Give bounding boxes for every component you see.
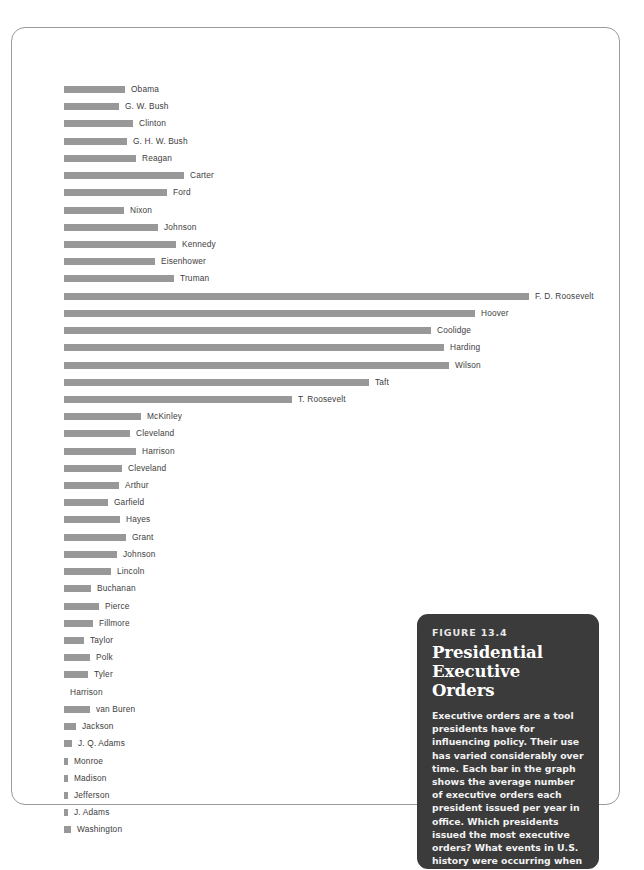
bar-row: Harding [64,344,624,361]
bar-label: Harding [450,344,480,351]
bar-label: van Buren [96,706,135,713]
figure-title-line-2: Executive Orders [432,662,584,700]
bar-row: Reagan [64,155,624,172]
bar [64,585,91,592]
bar [64,413,141,420]
bar [64,516,120,523]
bar [64,103,119,110]
bar [64,568,111,575]
bar-label: McKinley [147,413,182,420]
bar [64,465,122,472]
bar-label: Carter [190,172,214,179]
bar-label: Jefferson [74,792,109,799]
bar [64,826,71,833]
bar-label: Harrison [142,448,175,455]
bar [64,706,90,713]
bar [64,792,68,799]
figure-number: FIGURE 13.4 [432,627,584,638]
bar-label: Fillmore [99,620,130,627]
bar-label: Eisenhower [161,258,206,265]
bar-label: Taylor [90,637,113,644]
bar-row: Johnson [64,224,624,241]
bar [64,499,108,506]
bar-label: G. H. W. Bush [133,138,188,145]
bar-row: Ford [64,189,624,206]
bar-row: Arthur [64,482,624,499]
bar-label: Polk [96,654,113,661]
bar-label: Pierce [105,603,130,610]
bar-row: F. D. Roosevelt [64,293,624,310]
bar-label: Harrison [70,689,103,696]
bar-label: Johnson [164,224,197,231]
bar-row: Eisenhower [64,258,624,275]
bar-label: Ford [173,189,191,196]
bar-label: F. D. Roosevelt [535,293,594,300]
bar-row: Wilson [64,362,624,379]
bar [64,740,72,747]
bar-label: Obama [131,86,159,93]
bar [64,637,84,644]
bar-label: Wilson [455,362,481,369]
bar [64,327,431,334]
bar [64,723,76,730]
bar-label: Washington [77,826,122,833]
bar-label: Arthur [125,482,149,489]
bar [64,155,136,162]
bar-label: Taft [375,379,389,386]
bar [64,448,136,455]
bar [64,224,158,231]
figure-caption-box: FIGURE 13.4 Presidential Executive Order… [417,614,599,869]
bar [64,654,90,661]
bar-label: Monroe [74,758,103,765]
bar [64,551,117,558]
bar [64,310,475,317]
bar-label: Coolidge [437,327,471,334]
bar [64,620,93,627]
bar-row: Buchanan [64,585,624,602]
bar [64,207,124,214]
bar-label: J. Q. Adams [78,740,125,747]
bar [64,482,119,489]
figure-title: Presidential Executive Orders [432,643,584,700]
bar-label: Buchanan [97,585,136,592]
bar-label: G. W. Bush [125,103,169,110]
bar [64,775,68,782]
bar [64,671,88,678]
bar [64,241,176,248]
bar [64,258,155,265]
bar-row: Lincoln [64,568,624,585]
bar-row: Cleveland [64,430,624,447]
bar-label: Truman [180,275,209,282]
bar [64,138,127,145]
bar [64,189,167,196]
bar [64,86,125,93]
bar-label: Hayes [126,516,150,523]
bar [64,293,529,300]
bar [64,603,99,610]
bar-label: Tyler [94,671,113,678]
bar-label: Johnson [123,551,156,558]
bar-label: Grant [132,534,154,541]
bar [64,344,444,351]
bar-label: Hoover [481,310,509,317]
bar-row: Nixon [64,207,624,224]
bar [64,809,68,816]
bar-row: Coolidge [64,327,624,344]
bar-label: Madison [74,775,107,782]
bar-label: Kennedy [182,241,216,248]
bar-label: Nixon [130,207,152,214]
figure-body-text: Executive orders are a tool presidents h… [432,709,584,869]
bar-row: Kennedy [64,241,624,258]
bar [64,275,174,282]
bar-label: Garfield [114,499,144,506]
bar-label: Lincoln [117,568,144,575]
page-frame: ObamaG. W. BushClintonG. H. W. BushReaga… [11,27,620,805]
bar [64,120,133,127]
bar [64,172,184,179]
bar-row: Johnson [64,551,624,568]
bar-label: Cleveland [136,430,174,437]
bar-row: Hoover [64,310,624,327]
bar [64,534,126,541]
bar-label: Clinton [139,120,166,127]
bar-label: Cleveland [128,465,166,472]
